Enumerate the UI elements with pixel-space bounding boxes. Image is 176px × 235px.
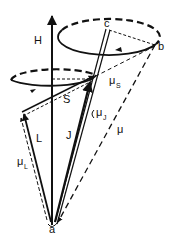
- j-vector: [55, 82, 90, 222]
- svg-text:J: J: [103, 114, 107, 121]
- label-mu: μ: [117, 123, 123, 135]
- cone-edge-line: [94, 46, 155, 77]
- label-c: c: [104, 17, 110, 29]
- svg-text:S: S: [116, 82, 121, 89]
- svg-text:L: L: [24, 163, 28, 170]
- orbit-direction-arrow-icon: [115, 47, 122, 52]
- l-vector: [24, 114, 51, 222]
- svg-text:μ: μ: [96, 106, 102, 118]
- vector-diagram: H c b S L J a μ μ S μ J μ L: [0, 0, 176, 235]
- label-b: b: [158, 40, 164, 52]
- label-mu-l: μ L: [17, 155, 28, 170]
- label-l: L: [36, 132, 42, 144]
- label-mu-j: μ J: [96, 106, 107, 121]
- label-s: S: [63, 93, 70, 105]
- orbit-direction-arrow-icon: [30, 89, 36, 93]
- label-a: a: [49, 223, 56, 235]
- svg-text:μ: μ: [109, 74, 115, 86]
- mu-j-brace: [92, 110, 94, 118]
- label-h: H: [34, 34, 42, 46]
- diagram-svg: H c b S L J a μ μ S μ J μ L: [0, 0, 176, 235]
- label-j: J: [66, 129, 72, 141]
- j-axis-line: [57, 30, 110, 224]
- upper-radius-line: [109, 30, 155, 45]
- svg-text:μ: μ: [17, 155, 23, 167]
- label-mu-s: μ S: [109, 74, 121, 89]
- mu-vector: [58, 45, 155, 222]
